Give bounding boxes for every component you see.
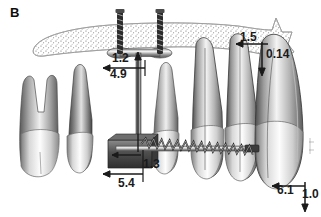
tooth-premolar-anchor bbox=[67, 65, 93, 174]
dental-biomechanics-illustration bbox=[0, 0, 321, 217]
dimension-label-1-0: 1.0 bbox=[302, 188, 319, 200]
dimension-label-1-2: 1.2 bbox=[112, 52, 129, 64]
dimension-label-4-9: 4.9 bbox=[110, 68, 127, 80]
dimension-label-0-14: 0.14 bbox=[266, 48, 289, 60]
dimension-label-1-3: 1.3 bbox=[143, 158, 160, 170]
edge-mark bbox=[309, 138, 314, 154]
tooth-lateral-incisor bbox=[225, 34, 259, 181]
dimension-label-5-4: 5.4 bbox=[118, 177, 135, 189]
tooth-molar bbox=[20, 75, 59, 176]
tooth-canine bbox=[191, 38, 224, 179]
dimension-label-1-5: 1.5 bbox=[240, 31, 257, 43]
figure-panel: B bbox=[0, 0, 321, 217]
dimension-label-6-1: 6.1 bbox=[277, 184, 294, 196]
